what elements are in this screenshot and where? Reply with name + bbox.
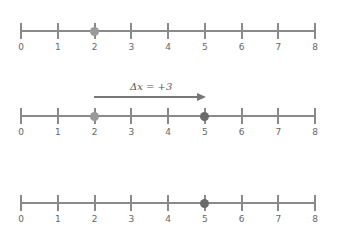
tick-mark <box>241 195 243 211</box>
tick-label: 6 <box>232 127 252 137</box>
tick-mark <box>20 195 22 211</box>
displacement-arrow <box>94 96 198 98</box>
tick-label: 5 <box>195 127 215 137</box>
tick-label: 4 <box>158 214 178 224</box>
tick-label: 2 <box>85 214 105 224</box>
tick-mark <box>130 108 132 124</box>
tick-mark <box>130 195 132 211</box>
tick-label: 7 <box>268 42 288 52</box>
tick-mark <box>241 108 243 124</box>
position-point <box>200 199 209 208</box>
tick-label: 8 <box>305 127 325 137</box>
tick-mark <box>20 108 22 124</box>
tick-label: 0 <box>11 214 31 224</box>
tick-mark <box>314 23 316 39</box>
tick-mark <box>241 23 243 39</box>
tick-mark <box>57 23 59 39</box>
tick-label: 4 <box>158 42 178 52</box>
tick-label: 3 <box>121 42 141 52</box>
tick-label: 0 <box>11 127 31 137</box>
tick-label: 2 <box>85 42 105 52</box>
tick-label: 7 <box>268 214 288 224</box>
tick-mark <box>167 195 169 211</box>
tick-label: 1 <box>48 214 68 224</box>
tick-mark <box>277 195 279 211</box>
tick-mark <box>277 23 279 39</box>
tick-label: 1 <box>48 127 68 137</box>
tick-label: 8 <box>305 42 325 52</box>
position-point <box>90 27 99 36</box>
tick-label: 5 <box>195 42 215 52</box>
position-point <box>200 112 209 121</box>
tick-label: 6 <box>232 214 252 224</box>
tick-label: 2 <box>85 127 105 137</box>
tick-label: 0 <box>11 42 31 52</box>
tick-mark <box>314 108 316 124</box>
tick-mark <box>94 195 96 211</box>
tick-mark <box>130 23 132 39</box>
tick-mark <box>167 108 169 124</box>
tick-mark <box>57 195 59 211</box>
displacement-label: Δx = +3 <box>130 81 172 92</box>
tick-mark <box>20 23 22 39</box>
tick-label: 8 <box>305 214 325 224</box>
tick-label: 6 <box>232 42 252 52</box>
tick-mark <box>167 23 169 39</box>
tick-label: 1 <box>48 42 68 52</box>
tick-label: 3 <box>121 127 141 137</box>
tick-mark <box>314 195 316 211</box>
tick-label: 3 <box>121 214 141 224</box>
tick-label: 4 <box>158 127 178 137</box>
tick-mark <box>204 23 206 39</box>
position-point <box>90 112 99 121</box>
tick-mark <box>57 108 59 124</box>
arrowhead-icon <box>197 93 206 101</box>
tick-label: 5 <box>195 214 215 224</box>
tick-label: 7 <box>268 127 288 137</box>
tick-mark <box>277 108 279 124</box>
